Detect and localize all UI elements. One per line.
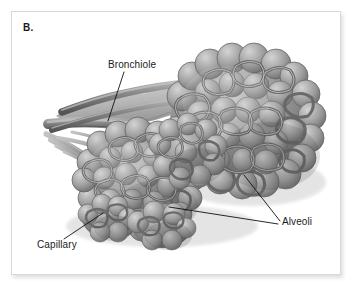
label-capillary: Capillary — [37, 240, 77, 250]
figure-stage: B. Bronchiole Alveoli Capillary — [12, 12, 342, 276]
panel-letter: B. — [23, 23, 33, 33]
label-alveoli: Alveoli — [282, 217, 312, 227]
figure-panel-b: B. Bronchiole Alveoli Capillary — [0, 0, 352, 288]
alveoli-illustration — [12, 12, 342, 276]
label-bronchiole: Bronchiole — [108, 60, 156, 70]
figure-card: B. Bronchiole Alveoli Capillary — [11, 11, 341, 275]
